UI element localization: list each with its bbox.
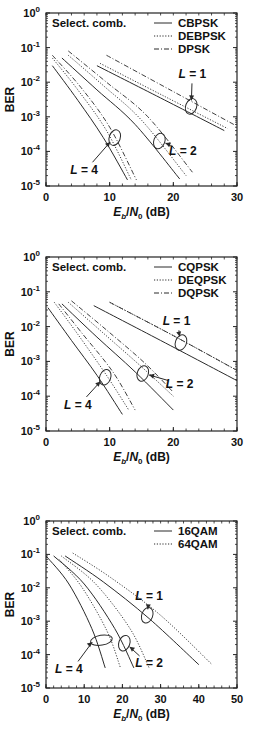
legend-label-cbpsk: CBPSK — [178, 17, 219, 29]
x-tick-label: 20 — [167, 191, 179, 203]
chart-qam: 10-510-410-310-210-110001020304050Eb/N0 … — [0, 508, 258, 729]
curve-debpsk-L4 — [52, 58, 131, 180]
diversity-order-label: L = 2 — [166, 377, 194, 391]
x-tick-label: 10 — [104, 191, 116, 203]
curve-dpsk-L1 — [106, 55, 233, 124]
legend-label-debpsk: DEBPSK — [178, 30, 227, 42]
legend-label-deqpsk: DEQPSK — [178, 274, 227, 286]
curve-64qam-L2 — [61, 556, 149, 668]
curve-cqpsk-L2 — [62, 304, 173, 410]
y-tick-label: 10-3 — [21, 109, 41, 123]
x-tick-label: 50 — [231, 693, 243, 705]
y-tick-label: 10-4 — [21, 647, 41, 661]
x-tick-label: 20 — [167, 436, 179, 448]
y-tick-label: 10-2 — [21, 319, 41, 333]
curve-cbpsk-L2 — [62, 58, 180, 179]
chart-bpsk: 10-510-410-310-210-11000102030Eb/N0 (dB)… — [0, 0, 258, 235]
diversity-order-label: L = 1 — [179, 67, 207, 81]
y-tick-label: 10-1 — [21, 546, 41, 560]
y-tick-label: 10-4 — [21, 143, 41, 157]
legend-label-cqpsk: CQPSK — [178, 261, 220, 273]
x-tick-label: 20 — [116, 693, 128, 705]
x-tick-label: 0 — [43, 436, 49, 448]
x-axis-label: Eb/N0 (dB) — [113, 450, 170, 466]
legend-label-dqpsk: DQPSK — [178, 287, 220, 299]
y-tick-label: 10-1 — [21, 284, 41, 298]
diversity-order-label: L = 1 — [135, 589, 163, 603]
y-tick-label: 10-5 — [21, 423, 41, 437]
diversity-order-label: L = 2 — [169, 144, 197, 158]
y-tick-label: 10-3 — [21, 353, 41, 367]
x-axis-label: Eb/N0 (dB) — [113, 707, 170, 723]
curve-64qam-L1 — [73, 553, 212, 665]
legend-label-64qam: 64QAM — [178, 538, 218, 550]
combining-note: Select. comb. — [52, 261, 126, 273]
diversity-order-label: L = 4 — [64, 398, 92, 412]
curve-16qam-L4 — [46, 556, 105, 668]
x-tick-label: 10 — [104, 436, 116, 448]
x-tick-label: 10 — [78, 693, 90, 705]
y-tick-label: 10-1 — [21, 40, 41, 54]
chart-qpsk: 10-510-410-310-210-11000102030Eb/N0 (dB)… — [0, 244, 258, 479]
arrow-icon — [87, 642, 92, 647]
curve-deqpsk-L2 — [68, 302, 173, 396]
legend-label-16qam: 16QAM — [178, 525, 218, 537]
x-tick-label: 0 — [43, 191, 49, 203]
y-tick-label: 10-5 — [21, 178, 41, 192]
combining-note: Select. comb. — [52, 17, 126, 29]
diversity-order-label: L = 4 — [70, 163, 98, 177]
curve-group-ellipse — [173, 333, 189, 352]
x-tick-label: 30 — [154, 693, 166, 705]
qam-ber-plot: 10-510-410-310-210-110001020304050Eb/N0 … — [0, 508, 258, 729]
x-tick-label: 0 — [43, 693, 49, 705]
curve-dqpsk-L2 — [71, 301, 173, 392]
curve-dqpsk-L1 — [110, 302, 237, 370]
diversity-order-label: L = 2 — [135, 656, 163, 670]
y-tick-label: 10-3 — [21, 613, 41, 627]
diversity-order-label: L = 4 — [55, 662, 83, 676]
curve-64qam-L4 — [59, 560, 120, 668]
curve-group-ellipse — [151, 132, 167, 151]
y-tick-label: 10-5 — [21, 680, 41, 694]
y-axis-label: BER — [3, 592, 17, 618]
bpsk-ber-plot: 10-510-410-310-210-11000102030Eb/N0 (dB)… — [0, 0, 258, 235]
y-axis-label: BER — [3, 331, 17, 357]
x-tick-label: 30 — [231, 436, 243, 448]
x-tick-label: 40 — [193, 693, 205, 705]
diversity-order-label: L = 1 — [163, 314, 191, 328]
y-tick-label: 10-4 — [21, 388, 41, 402]
y-tick-label: 100 — [23, 5, 40, 19]
y-tick-label: 100 — [23, 513, 40, 527]
arrow-icon — [149, 374, 154, 379]
curve-group-ellipse — [90, 633, 113, 647]
curve-debpsk-L1 — [100, 63, 227, 128]
y-tick-label: 10-2 — [21, 580, 41, 594]
curve-dqpsk-L4 — [59, 304, 135, 410]
x-tick-label: 30 — [231, 191, 243, 203]
y-axis-label: BER — [3, 87, 17, 113]
combining-note: Select. comb. — [52, 525, 126, 537]
y-tick-label: 10-2 — [21, 74, 41, 88]
legend-label-dpsk: DPSK — [178, 43, 211, 55]
x-axis-label: Eb/N0 (dB) — [113, 205, 170, 221]
y-tick-label: 100 — [23, 249, 40, 263]
qpsk-ber-plot: 10-510-410-310-210-11000102030Eb/N0 (dB)… — [0, 244, 258, 479]
